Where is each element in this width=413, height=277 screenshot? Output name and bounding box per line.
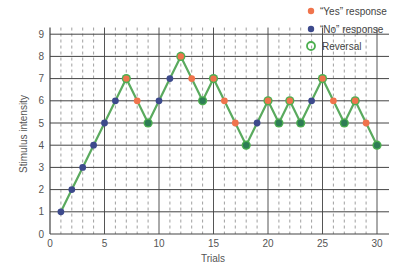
legend-no-label: “No” response bbox=[320, 24, 384, 35]
data-point bbox=[352, 98, 358, 104]
data-point bbox=[287, 98, 293, 104]
svg-text:3: 3 bbox=[38, 162, 44, 173]
svg-text:6: 6 bbox=[38, 95, 44, 106]
data-point bbox=[199, 98, 205, 104]
data-point bbox=[232, 120, 239, 127]
svg-text:1: 1 bbox=[38, 206, 44, 217]
data-point bbox=[145, 120, 151, 126]
data-point bbox=[308, 97, 315, 104]
data-points bbox=[58, 52, 382, 215]
legend-reversal-label: Reversal bbox=[322, 41, 361, 52]
data-point bbox=[79, 164, 86, 171]
svg-text:20: 20 bbox=[262, 238, 274, 249]
svg-text:5: 5 bbox=[102, 238, 108, 249]
svg-text:30: 30 bbox=[371, 238, 383, 249]
staircase-chart: 0123456789051015202530 Trials Stimulus i… bbox=[0, 0, 413, 277]
data-point bbox=[210, 75, 216, 81]
data-point bbox=[90, 142, 97, 149]
data-point bbox=[363, 120, 370, 127]
x-axis-label: Trials bbox=[201, 253, 225, 264]
data-point bbox=[167, 75, 174, 82]
data-point bbox=[221, 97, 228, 104]
data-point bbox=[68, 186, 75, 193]
data-point bbox=[276, 120, 282, 126]
svg-text:0: 0 bbox=[38, 229, 44, 240]
svg-text:15: 15 bbox=[208, 238, 220, 249]
svg-text:7: 7 bbox=[38, 73, 44, 84]
svg-text:25: 25 bbox=[317, 238, 329, 249]
data-point bbox=[101, 120, 108, 127]
data-point bbox=[178, 53, 184, 59]
legend-yes-label: “Yes” response bbox=[320, 6, 387, 17]
data-point bbox=[188, 75, 195, 82]
svg-text:2: 2 bbox=[38, 184, 44, 195]
data-point bbox=[243, 142, 249, 148]
data-point bbox=[319, 75, 325, 81]
svg-text:4: 4 bbox=[38, 140, 44, 151]
data-point bbox=[265, 98, 271, 104]
svg-text:8: 8 bbox=[38, 51, 44, 62]
data-point bbox=[374, 142, 380, 148]
no-response-legend-icon bbox=[308, 26, 314, 32]
data-point bbox=[58, 208, 65, 215]
svg-text:0: 0 bbox=[47, 238, 53, 249]
data-point bbox=[134, 97, 141, 104]
svg-text:10: 10 bbox=[153, 238, 165, 249]
data-point bbox=[254, 120, 261, 127]
legend: “Yes” response “No” response Reversal bbox=[307, 6, 387, 52]
yes-response-legend-icon bbox=[308, 8, 314, 14]
data-point bbox=[330, 97, 337, 104]
data-point bbox=[298, 120, 304, 126]
staircase-line bbox=[61, 56, 377, 211]
svg-text:5: 5 bbox=[38, 118, 44, 129]
data-point bbox=[341, 120, 347, 126]
data-point bbox=[112, 97, 119, 104]
svg-text:9: 9 bbox=[38, 29, 44, 40]
data-point bbox=[156, 97, 163, 104]
y-axis-label: Stimulus intensity bbox=[18, 95, 29, 173]
tick-labels: 0123456789051015202530 bbox=[38, 29, 383, 249]
data-point bbox=[123, 75, 129, 81]
reversal-legend-icon bbox=[307, 42, 315, 50]
